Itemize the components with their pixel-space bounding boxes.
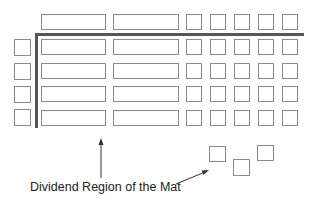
- dividend-region-label: Dividend Region of the Mat: [30, 180, 181, 194]
- annotation-arrows: [0, 0, 317, 201]
- vertical-arrow-icon: [99, 138, 104, 178]
